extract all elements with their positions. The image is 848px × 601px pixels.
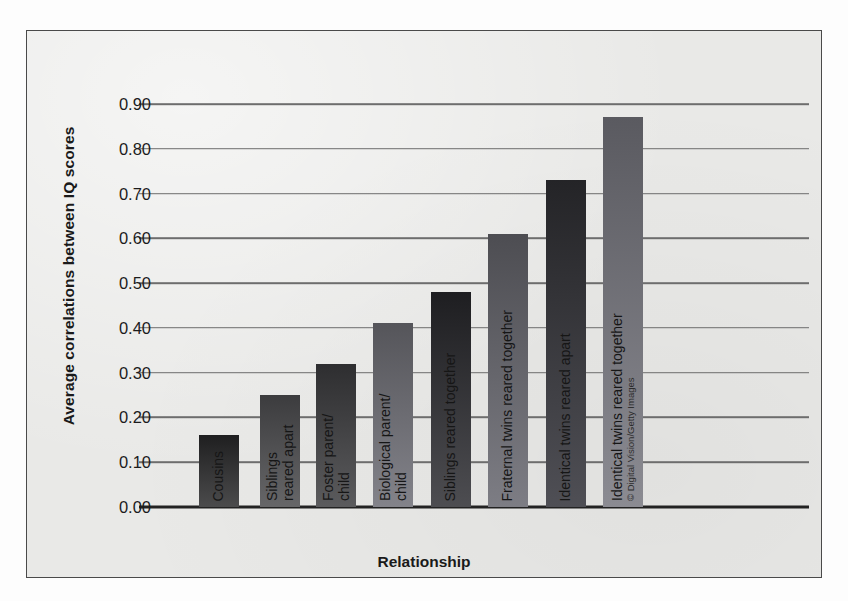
bar-body: Biological parent/child [373,323,413,507]
bar-body: Identical twins reared apart [546,180,586,507]
y-tick-label: 0.40 [81,318,151,337]
bar: Cousins [199,435,239,507]
bar: Siblings reared together [431,292,471,507]
bar-body: Fraternal twins reared together [488,234,528,507]
bar-category-label: Identical twins reared together© Digital… [610,313,636,501]
y-tick-label: 0.60 [81,229,151,248]
y-tick-label: 0.10 [81,453,151,472]
bar: Fraternal twins reared together [488,234,528,507]
bar-body: Siblings reared together [431,292,471,507]
bar: Siblingsreared apart [260,395,300,507]
y-tick-label: 0.70 [81,184,151,203]
bar-category-label: Foster parent/child [321,414,352,501]
bar-category-label: Identical twins reared apart [558,333,574,501]
bar-body: Siblingsreared apart [260,395,300,507]
x-axis-title: Relationship [27,553,821,571]
bar-category-label: Cousins [211,450,227,501]
bars-layer: CousinsSiblingsreared apartFoster parent… [153,47,793,547]
scanned-page: Average correlations between IQ scores 0… [0,0,848,601]
y-tick-label: 0.50 [81,274,151,293]
bar-body: Cousins [199,435,239,507]
y-tick-label: 0.30 [81,363,151,382]
bar-category-label-line2: child [393,394,409,501]
bar-category-label: Fraternal twins reared together [500,310,516,501]
bar: Biological parent/child [373,323,413,507]
y-tick-label: 0.00 [81,498,151,517]
y-axis-title: Average correlations between IQ scores [60,66,78,486]
bar-category-label-line2: child [336,414,352,501]
bar-body: Foster parent/child [316,364,356,507]
bar-body: Identical twins reared together© Digital… [603,117,643,507]
bar-category-label: Siblings reared together [443,352,459,501]
image-credit: © Digital Vision/Getty Images [626,313,637,501]
bar: Foster parent/child [316,364,356,507]
bar-category-label: Siblingsreared apart [265,425,296,501]
bar-category-label-line2: reared apart [280,425,296,501]
chart-figure-panel: Average correlations between IQ scores 0… [26,30,822,578]
y-tick-label: 0.20 [81,408,151,427]
bar: Identical twins reared apart [546,180,586,507]
y-tick-label: 0.80 [81,139,151,158]
bar-category-label: Biological parent/child [378,394,409,501]
bar: Identical twins reared together© Digital… [603,117,643,507]
plot-area: 0.900.800.700.600.500.400.300.200.100.00… [153,47,793,547]
y-tick-label: 0.90 [81,95,151,114]
